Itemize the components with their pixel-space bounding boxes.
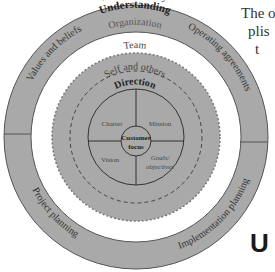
side-text-line-1: The o <box>241 5 275 22</box>
mission-label: Mission <box>149 120 172 128</box>
vision-label: Vision <box>101 156 120 164</box>
customer-label: Customer <box>121 134 151 142</box>
side-text-line-3: t <box>255 41 259 58</box>
focus-label: focus <box>128 143 144 151</box>
charter-label: Charter <box>102 120 124 128</box>
objectives-label: objectives <box>146 163 174 171</box>
team-label: Team <box>123 39 147 51</box>
side-text-line-2: plis <box>248 23 270 40</box>
heading-letter: U <box>250 228 269 259</box>
customer-focus-diagram: Accountability Understanding Organizatio… <box>0 0 275 272</box>
goals-label: Goals/ <box>151 154 171 162</box>
